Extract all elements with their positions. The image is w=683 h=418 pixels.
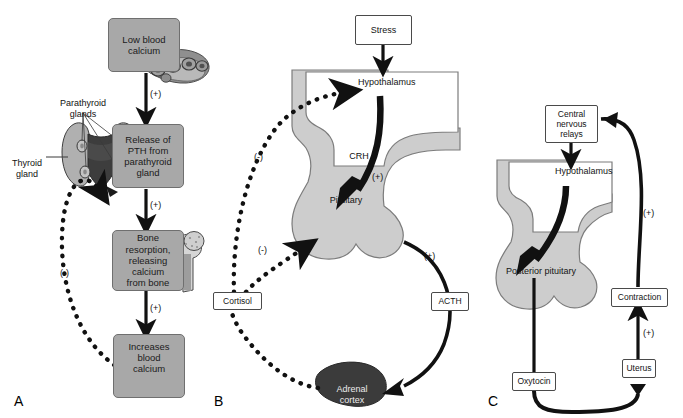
box-contraction[interactable]: Contraction: [611, 288, 668, 307]
sign-negative-hypothalamus: (-): [254, 152, 263, 162]
panel-letter-C: C: [488, 393, 498, 409]
label-crh: CRH: [344, 151, 374, 161]
box-release-pth-label: Release of PTH from parathyroid gland: [124, 134, 172, 179]
box-uterus-label: Uterus: [626, 363, 651, 373]
sign-plus-A2: (+): [150, 200, 161, 210]
label-hypothalamus-C: Hypothalamus: [555, 166, 635, 176]
sign-plus-crh: (+): [372, 172, 383, 182]
label-parathyroid-glands: Parathyroid glands: [47, 88, 119, 119]
panelB-graphics: [231, 45, 460, 406]
label-pituitary-B: Pituitary: [316, 195, 376, 205]
box-bone-resorption-label: Bone resorption, releasing calcium from …: [116, 232, 180, 288]
box-release-pth[interactable]: Release of PTH from parathyroid gland: [112, 124, 184, 188]
arrow-oxytocin-to-uterus: [534, 391, 638, 412]
box-central-nervous-relays[interactable]: Central nervous relays: [545, 105, 598, 143]
feedback-cortisol-to-pituitary: [246, 248, 304, 292]
box-stress[interactable]: Stress: [355, 15, 412, 45]
label-adrenal-cortex: Adrenal cortex: [322, 374, 382, 405]
sign-negative-A: (-): [60, 268, 69, 278]
panel-letter-B: B: [214, 393, 223, 409]
box-bone-resorption[interactable]: Bone resorption, releasing calcium from …: [112, 230, 184, 291]
box-stress-label: Stress: [371, 25, 397, 36]
sign-plus-A1: (+): [150, 89, 161, 99]
box-oxytocin-label: Oxytocin: [517, 376, 550, 386]
panel-letter-A: A: [14, 393, 23, 409]
box-acth[interactable]: ACTH: [431, 292, 469, 311]
feedback-cortisol-from-adrenal: [231, 310, 318, 388]
sign-plus-contraction: (+): [643, 328, 654, 338]
box-oxytocin[interactable]: Oxytocin: [512, 372, 556, 391]
sign-plus-A3: (+): [150, 303, 161, 313]
sign-plus-acth: (+): [424, 251, 435, 261]
label-thyroid-gland: Thyroid gland: [6, 148, 48, 179]
box-low-blood-calcium-label: Low blood calcium: [122, 34, 165, 56]
arrow-acth-pituitary-to-adrenal: [404, 242, 450, 386]
box-cortisol[interactable]: Cortisol: [213, 292, 262, 310]
figure-canvas: Low blood calcium Release of PTH from pa…: [0, 0, 683, 418]
box-central-nervous-relays-label: Central nervous relays: [556, 109, 586, 139]
box-uterus[interactable]: Uterus: [622, 359, 656, 378]
box-cortisol-label: Cortisol: [223, 296, 252, 306]
box-increases-blood-calcium[interactable]: Increases blood calcium: [113, 334, 185, 398]
box-low-blood-calcium[interactable]: Low blood calcium: [108, 18, 180, 72]
sign-plus-cns: (+): [643, 208, 654, 218]
label-hypothalamus-B: Hypothalamus: [358, 77, 458, 87]
diagram-graphics: [0, 0, 683, 418]
box-acth-label: ACTH: [438, 296, 461, 306]
label-posterior-pituitary: Posterior pituitary: [496, 266, 586, 276]
box-increases-blood-calcium-label: Increases blood calcium: [128, 341, 169, 375]
box-contraction-label: Contraction: [618, 292, 661, 302]
sign-negative-pituitary: (-): [258, 245, 267, 255]
